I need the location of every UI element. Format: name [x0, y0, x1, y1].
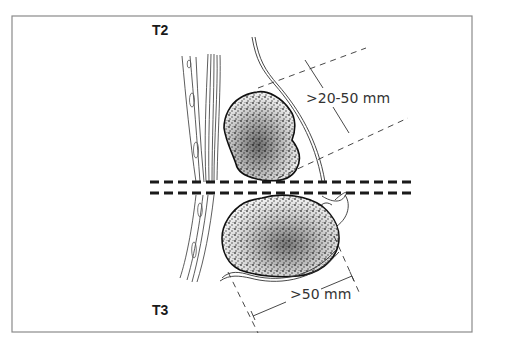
stage-label-t3: T3 [152, 302, 168, 318]
dimension-label-t2: >20-50 mm [306, 90, 390, 106]
figure-frame [12, 16, 472, 332]
tumor-t3 [220, 195, 339, 281]
staging-diagram [0, 0, 530, 345]
dimension-label-t3: >50 mm [290, 286, 351, 302]
stage-label-t2: T2 [152, 22, 168, 38]
